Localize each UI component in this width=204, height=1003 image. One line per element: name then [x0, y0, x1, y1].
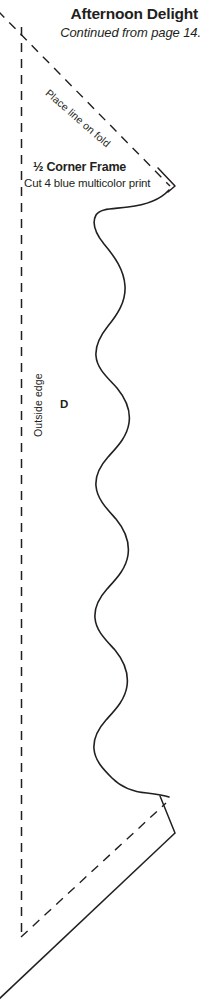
scalloped-cut-edge: [94, 190, 169, 797]
bottom-apex-solid-segment: [160, 796, 175, 833]
outside-edge-label: Outside edge: [33, 373, 44, 437]
cut-instruction-label: Cut 4 blue multicolor print: [24, 177, 150, 189]
page-title: Afternoon Delight: [71, 6, 198, 22]
page-subtitle: Continued from page 14.: [60, 26, 201, 40]
bottom-dashed-seam-line: [21, 803, 166, 937]
bottom-solid-cut-line: [0, 833, 175, 1000]
pattern-page: Afternoon Delight Continued from page 14…: [0, 0, 204, 1003]
piece-name-label: ½ Corner Frame: [33, 161, 126, 174]
pattern-diagram: [0, 0, 204, 1003]
piece-letter-label: D: [60, 398, 68, 410]
top-apex-solid-segment: [158, 168, 175, 192]
